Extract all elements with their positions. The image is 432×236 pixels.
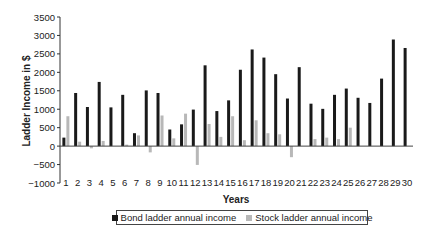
bond-bar — [62, 138, 65, 146]
bond-bar — [157, 93, 160, 146]
y-axis: −1000−5000500100015002000250030003500 — [28, 12, 60, 189]
bond-bar — [333, 95, 336, 146]
x-axis: 1234567891011121314151617181920212223242… — [60, 146, 413, 188]
x-tick-label: 18 — [261, 177, 272, 188]
bond-bar — [215, 111, 218, 146]
bond-bar — [392, 40, 395, 147]
y-tick-label: 0 — [50, 141, 55, 152]
x-tick-label: 28 — [378, 177, 389, 188]
x-tick-label: 1 — [63, 177, 68, 188]
bond-bar — [98, 82, 101, 146]
y-tick-label: 1000 — [34, 104, 55, 115]
y-tick-label: −500 — [34, 159, 55, 170]
x-tick-label: 17 — [249, 177, 260, 188]
stock-bar — [184, 114, 187, 146]
bond-bar — [368, 103, 371, 146]
x-tick-label: 14 — [214, 177, 225, 188]
stock-bar — [219, 137, 222, 146]
bond-bar — [345, 89, 348, 147]
stock-bar — [196, 146, 199, 165]
x-tick-label: 21 — [296, 177, 307, 188]
bond-bar — [227, 100, 230, 146]
stock-bar — [66, 116, 69, 146]
bond-bar — [192, 110, 195, 147]
bond-bar — [180, 124, 183, 146]
x-tick-label: 3 — [87, 177, 92, 188]
legend-swatch-bond — [112, 215, 118, 221]
bond-bar — [145, 90, 148, 146]
stock-bar — [102, 141, 105, 146]
bond-bar — [86, 107, 89, 146]
bond-bar — [251, 49, 254, 146]
x-tick-label: 5 — [110, 177, 115, 188]
stock-bar — [266, 133, 269, 146]
stock-bar — [78, 142, 81, 146]
y-tick-label: 2500 — [34, 48, 55, 59]
bond-bar — [404, 48, 407, 146]
x-tick-label: 2 — [75, 177, 80, 188]
x-tick-label: 7 — [134, 177, 139, 188]
x-tick-label: 16 — [237, 177, 248, 188]
legend: Bond ladder annual income Stock ladder a… — [116, 210, 368, 225]
bond-bar — [133, 133, 136, 146]
bond-bar — [109, 107, 112, 146]
legend-swatch-stock — [246, 215, 252, 221]
y-tick-label: 3000 — [34, 30, 55, 41]
stock-bar — [208, 124, 211, 146]
bond-bar — [262, 58, 265, 147]
x-tick-label: 12 — [190, 177, 201, 188]
stock-bar — [161, 115, 164, 146]
x-tick-label: 23 — [319, 177, 330, 188]
x-tick-label: 25 — [343, 177, 354, 188]
x-tick-label: 22 — [308, 177, 319, 188]
y-tick-label: 3500 — [34, 12, 55, 23]
stock-bar — [349, 128, 352, 146]
bond-bar — [168, 130, 171, 147]
bond-bar — [204, 65, 207, 146]
x-axis-label: Years — [223, 194, 250, 205]
bond-bar — [298, 67, 301, 146]
bar-chart: −1000−5000500100015002000250030003500 12… — [0, 0, 432, 236]
x-tick-label: 8 — [146, 177, 151, 188]
x-tick-label: 20 — [284, 177, 295, 188]
bond-bar — [357, 98, 360, 146]
y-tick-label: 2000 — [34, 67, 55, 78]
x-tick-label: 30 — [402, 177, 413, 188]
x-tick-label: 15 — [225, 177, 236, 188]
x-tick-label: 29 — [390, 177, 401, 188]
bond-bar — [121, 95, 124, 146]
x-tick-label: 27 — [367, 177, 378, 188]
bond-bar — [74, 93, 77, 146]
bond-bar — [380, 79, 383, 147]
y-tick-label: 500 — [39, 122, 55, 133]
x-tick-label: 26 — [355, 177, 366, 188]
stock-bar — [325, 138, 328, 146]
bond-bar — [286, 99, 289, 147]
stock-bar — [231, 116, 234, 146]
stock-bar — [278, 134, 281, 146]
x-tick-label: 4 — [99, 177, 104, 188]
stock-bar — [255, 120, 258, 146]
stock-bar — [243, 140, 246, 146]
x-tick-label: 24 — [331, 177, 342, 188]
bond-bar — [239, 70, 242, 146]
x-tick-label: 9 — [157, 177, 162, 188]
x-tick-label: 6 — [122, 177, 127, 188]
bond-bar — [309, 104, 312, 146]
stock-bar — [137, 135, 140, 146]
x-tick-label: 11 — [179, 177, 189, 188]
bond-bar — [321, 109, 324, 146]
stock-bar — [337, 139, 340, 146]
stock-bar — [172, 138, 175, 146]
y-tick-label: 1500 — [34, 85, 55, 96]
x-tick-label: 10 — [166, 177, 177, 188]
y-tick-label: −1000 — [28, 178, 55, 189]
y-axis-label: Ladder Income in $ — [21, 55, 32, 147]
legend-item-bond: Bond ladder annual income — [112, 212, 237, 223]
stock-bar — [313, 139, 316, 146]
stock-bar — [149, 146, 152, 152]
legend-label-bond: Bond ladder annual income — [121, 212, 237, 223]
legend-label-stock: Stock ladder annual income — [255, 212, 372, 223]
legend-item-stock: Stock ladder annual income — [246, 212, 372, 223]
bond-bar — [274, 74, 277, 146]
